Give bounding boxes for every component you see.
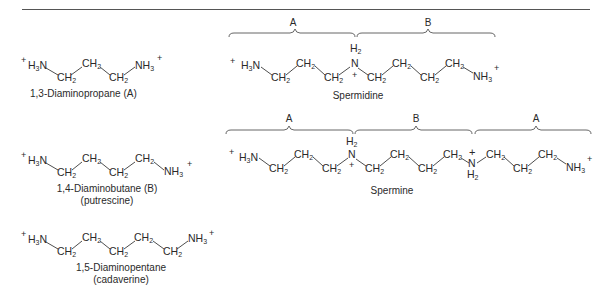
amine-nh3: NH3: [473, 71, 492, 82]
compound-name: Spermidine: [318, 90, 398, 102]
amine-h3n: H3N: [239, 152, 258, 163]
charge-plus: +: [230, 57, 235, 66]
methylene-group: CH2: [109, 72, 128, 83]
amine-h3n: H3N: [241, 60, 260, 71]
methylene-group: CH2: [109, 167, 128, 178]
amine-h3n: H3N: [28, 155, 47, 166]
amine-h3n: H3N: [28, 234, 47, 245]
compound-name: 1,3-Diaminopropane (A): [30, 88, 150, 100]
charge-plus: +: [209, 229, 214, 238]
charge-plus: +: [349, 161, 354, 170]
methylene-group: CH2: [390, 149, 409, 160]
methylene-group: CH2: [82, 58, 101, 69]
secondary-amine-n: N: [348, 149, 356, 160]
segment-label-b: B: [409, 114, 423, 124]
amine-nh3: NH3: [164, 166, 183, 177]
methylene-group: CH2: [269, 163, 288, 174]
methylene-group: CH2: [294, 149, 313, 160]
charge-plus: +: [157, 54, 162, 63]
segment-label-a: A: [529, 114, 543, 124]
methylene-group: CH2: [538, 149, 557, 160]
charge-plus: +: [494, 64, 499, 73]
charge-plus: +: [229, 148, 234, 157]
methylene-group: CH2: [486, 149, 505, 160]
segment-label-b: B: [421, 18, 435, 28]
charge-plus: +: [587, 155, 592, 164]
charge-plus: +: [21, 56, 26, 65]
methylene-group: CH2: [443, 149, 462, 160]
methylene-group: CH2: [367, 72, 386, 83]
charge-plus: +: [21, 230, 26, 239]
segment-label-a: A: [282, 114, 296, 124]
methylene-group: CH2: [513, 163, 532, 174]
top-divider-rule: [22, 9, 590, 10]
compound-common-name: (cadaverine): [66, 274, 176, 286]
methylene-group: CH2: [271, 72, 290, 83]
methylene-group: CH2: [418, 163, 437, 174]
methylene-group: CH2: [109, 246, 128, 257]
methylene-group: CH2: [420, 72, 439, 83]
methylene-group: CH2: [296, 58, 315, 69]
nitrogen-h2: H2: [350, 43, 362, 54]
charge-plus: +: [21, 151, 26, 160]
methylene-group: CH2: [57, 167, 76, 178]
methylene-group: CH2: [57, 72, 76, 83]
charge-plus: +: [187, 160, 192, 169]
amine-h3n: H3N: [28, 60, 47, 71]
methylene-group: CH2: [445, 58, 464, 69]
methylene-group: CH2: [82, 153, 101, 164]
amine-nh3: NH3: [135, 60, 154, 71]
nitrogen-h2: H2: [346, 136, 358, 147]
methylene-group: CH2: [134, 232, 153, 243]
methylene-group: CH2: [392, 58, 411, 69]
charge-plus: +: [352, 71, 357, 80]
methylene-group: CH2: [322, 163, 341, 174]
amine-nh3: NH3: [188, 233, 207, 244]
nitrogen-h2: H2: [467, 169, 479, 180]
methylene-group: CH2: [135, 153, 154, 164]
segment-label-a: A: [286, 18, 300, 28]
methylene-group: CH2: [82, 232, 101, 243]
secondary-amine-n: N: [351, 58, 359, 69]
methylene-group: CH2: [365, 163, 384, 174]
compound-name: 1,5-Diaminopentane: [66, 262, 176, 274]
methylene-group: CH2: [324, 72, 343, 83]
amine-nh3: NH3: [566, 162, 585, 173]
charge-plus: +: [469, 148, 475, 157]
compound-name: Spermine: [352, 185, 432, 197]
methylene-group: CH2: [163, 246, 182, 257]
compound-common-name: (putrescine): [52, 195, 162, 207]
compound-name: 1,4-Diaminobutane (B): [52, 183, 162, 195]
methylene-group: CH2: [57, 246, 76, 257]
